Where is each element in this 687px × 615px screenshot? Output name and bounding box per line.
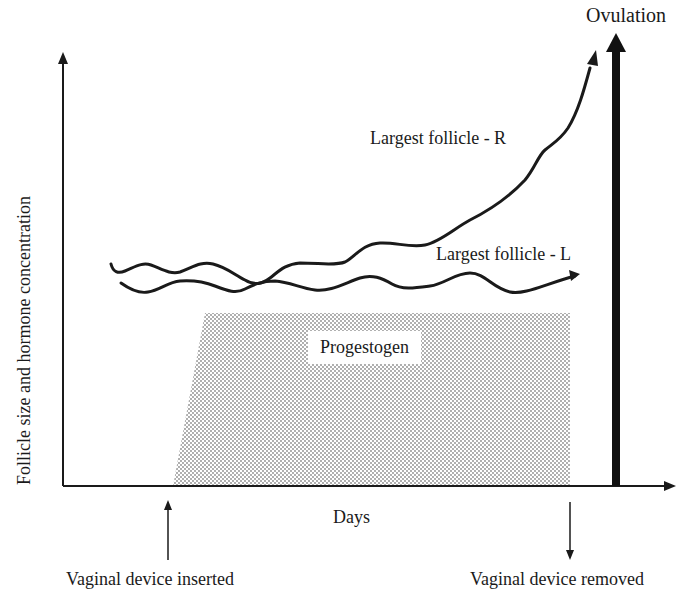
curve-r-arrow-icon [587,50,598,66]
x-axis-label: Days [333,507,370,528]
y-axis [58,52,68,486]
curve-follicle-l [121,270,580,293]
ovulation-arrow-icon [606,33,626,52]
inserted-arrow [164,500,172,560]
progestogen-label: Progestogen [308,331,421,364]
y-axis-arrow-icon [58,52,68,64]
follicle-r-label: Largest follicle - R [370,128,506,149]
ovulation-label: Ovulation [586,4,666,27]
x-axis-arrow-icon [664,481,676,491]
ovulation-arrow [606,33,626,486]
arrow-up-icon [164,500,172,510]
removed-arrow [566,502,574,560]
curve-l-arrow-icon [569,270,580,281]
y-axis-label: Follicle size and hormone concentration [14,196,35,485]
device-removed-label: Vaginal device removed [470,569,644,590]
arrow-down-icon [566,550,574,560]
device-inserted-label: Vaginal device inserted [66,569,234,590]
follicle-l-label: Largest follicle - L [436,244,571,265]
